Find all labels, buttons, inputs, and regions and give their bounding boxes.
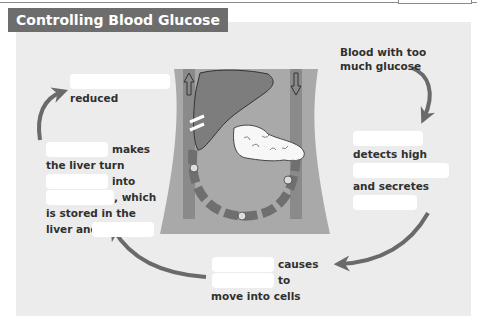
liver-into-text: into [112, 174, 135, 189]
cycle-arrow-bottom-right [340, 213, 428, 264]
cycle-arrow-top-right [412, 68, 430, 118]
blank-causes-subject[interactable] [212, 257, 274, 272]
start-text-line1: Blood with too [340, 45, 426, 60]
blank-makes-subject[interactable] [46, 142, 108, 157]
cycle-arrow-bottom-left [114, 230, 206, 277]
cycle-arrow-top-left [39, 92, 62, 140]
left-blood-vessel [183, 69, 195, 219]
liver-which-text: , which [114, 190, 156, 205]
end-reduced-text: reduced [70, 91, 118, 106]
blank-high-what[interactable] [353, 163, 449, 178]
insulin-causes-text: causes [278, 257, 318, 272]
blank-to-subject[interactable] [212, 273, 274, 288]
liver-turn-text: the liver turn [46, 158, 124, 173]
insulin-to-text: to [278, 273, 290, 288]
pancreas-secretes-text: and secretes [353, 179, 429, 194]
insulin-move-text: move into cells [211, 289, 301, 304]
start-text-line2: much glucose [340, 59, 421, 74]
pancreas-detects-text: detects high [353, 147, 427, 162]
blank-turn-what[interactable] [46, 174, 108, 189]
blank-into-what[interactable] [46, 190, 114, 205]
liver-and-text: liver and [46, 222, 98, 237]
liver-makes-text: makes [112, 142, 150, 157]
blank-liver-and[interactable] [92, 222, 154, 237]
blank-pancreas-organ[interactable] [353, 131, 423, 146]
blank-secretes-what[interactable] [353, 195, 417, 210]
blank-reduced-subject[interactable] [70, 74, 170, 89]
liver-stored-text: is stored in the [46, 206, 136, 221]
